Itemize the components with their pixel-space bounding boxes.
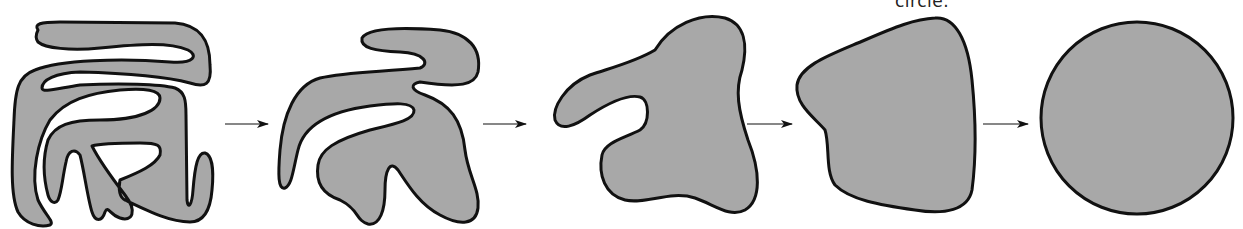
stage-2-shape: [279, 29, 479, 225]
stage-5-circle: [1041, 22, 1233, 214]
shape-evolution-diagram: [0, 0, 1243, 229]
stage-3-shape: [555, 17, 758, 213]
stage-1-shape: [12, 22, 213, 226]
stage-4-shape: [797, 18, 975, 212]
